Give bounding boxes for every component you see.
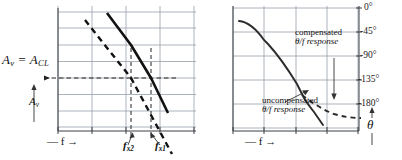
phase-x-axis-label: — f →: [245, 136, 276, 148]
uncompensated-annotation-line2: θ/f response: [262, 104, 305, 114]
phase-response-panel: 0° -45° -90° -135° -180° θ — f → compens…: [201, 0, 402, 160]
uncompensated-annotation: uncompensated θ/f response: [262, 96, 318, 115]
gain-plot-svg: [0, 0, 201, 160]
phase-tick-90: -90°: [360, 51, 376, 61]
compensated-annotation: compensated θ/f response: [295, 28, 342, 47]
gain-x-axis: [58, 127, 196, 134]
phase-y-axis-label: θ: [367, 118, 373, 132]
gain-reference-arrow: [44, 75, 50, 80]
gain-grid: [58, 6, 196, 131]
gain-reference-label: Av = ACL: [2, 53, 49, 68]
gain-response-panel: Av = ACL Av — f → fx2 fx1: [0, 0, 201, 160]
phase-tick-45: -45°: [360, 27, 376, 37]
compensated-leader-arrowhead: [331, 94, 336, 100]
compensated-annotation-line2: θ/f response: [295, 36, 338, 46]
phase-tick-0: 0°: [364, 3, 373, 13]
fx2-label: fx2: [123, 140, 134, 154]
av-axis-arrowhead: [31, 84, 36, 90]
gain-x-axis-label: — f →: [47, 136, 78, 148]
fx1-label: fx1: [155, 140, 166, 154]
phase-tick-135: -135°: [358, 75, 379, 85]
gain-y-axis-label: Av: [29, 96, 39, 110]
phase-tick-180: -180°: [358, 99, 379, 109]
fx2-leader-arrowhead: [129, 133, 134, 139]
figure-root: Av = ACL Av — f → fx2 fx1: [0, 0, 402, 160]
